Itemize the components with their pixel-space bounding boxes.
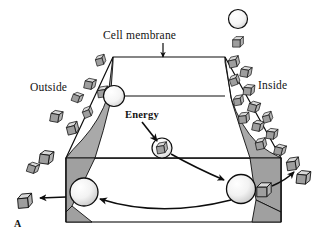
label-outside: Outside — [30, 82, 67, 94]
carrier-protein-bottom-right — [227, 175, 256, 204]
legend-molecule-symbol — [233, 37, 244, 48]
label-inside: Inside — [258, 80, 287, 92]
molecule-cube-released — [257, 183, 271, 197]
carrier-protein-top-left — [104, 86, 125, 107]
carrier-sphere — [227, 175, 256, 204]
carrier-sphere — [104, 86, 125, 107]
label-cell-membrane: Cell membrane — [103, 30, 176, 42]
label-energy: Energy — [125, 110, 159, 121]
legend-carrier-symbol — [229, 10, 248, 29]
carrier-sphere — [70, 178, 98, 206]
carrier-protein-bottom-left — [70, 178, 98, 206]
panel-label: A — [14, 219, 21, 229]
carrier-protein-center — [152, 138, 172, 158]
arrow-release-outside — [40, 197, 66, 198]
